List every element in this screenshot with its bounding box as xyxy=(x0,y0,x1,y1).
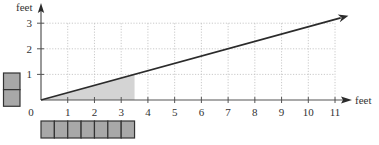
x-tick-label: 11 xyxy=(330,106,341,118)
x-tick-label: 8 xyxy=(252,106,258,118)
vertical-unit-block xyxy=(4,73,21,90)
horizontal-unit-block xyxy=(54,121,67,138)
horizontal-unit-block xyxy=(108,121,121,138)
x-tick-label: 1 xyxy=(65,106,71,118)
ratio-chart: 01234567891011123 feet feet xyxy=(0,0,379,145)
vertical-unit-blocks xyxy=(4,73,21,106)
horizontal-unit-block xyxy=(41,121,54,138)
y-tick-label: 3 xyxy=(27,17,33,29)
y-tick-label: 2 xyxy=(27,43,33,55)
tick-labels: 01234567891011123 xyxy=(27,17,341,118)
series-line xyxy=(41,18,341,100)
x-tick-label: 6 xyxy=(199,106,205,118)
horizontal-unit-block xyxy=(121,121,134,138)
y-tick-label: 1 xyxy=(27,68,33,80)
horizontal-unit-block xyxy=(68,121,81,138)
x-tick-label: 7 xyxy=(225,106,231,118)
y-axis-title: feet xyxy=(16,1,32,13)
x-tick-label: 2 xyxy=(92,106,98,118)
horizontal-unit-block xyxy=(81,121,94,138)
horizontal-unit-block xyxy=(94,121,107,138)
x-tick-label: 3 xyxy=(118,106,124,118)
x-tick-label: 9 xyxy=(279,106,285,118)
horizontal-unit-blocks xyxy=(41,121,135,138)
x-axis-title: feet xyxy=(355,94,371,106)
x-tick-label: 0 xyxy=(28,106,34,118)
series xyxy=(41,15,348,100)
x-tick-label: 5 xyxy=(172,106,178,118)
vertical-unit-block xyxy=(4,90,21,107)
x-tick-label: 10 xyxy=(303,106,315,118)
x-tick-label: 4 xyxy=(145,106,151,118)
